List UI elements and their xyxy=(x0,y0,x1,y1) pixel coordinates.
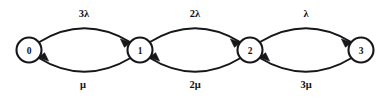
rate-label-0-to-1: 3λ xyxy=(79,8,90,19)
transition-arcs xyxy=(38,28,353,72)
transition-arc-path xyxy=(259,28,352,42)
transition-rate-labels: 3λ μ 2λ 2μ λ 3μ xyxy=(79,8,312,90)
rate-label-2-to-3: λ xyxy=(303,8,309,19)
rate-label-1-to-2: 2λ xyxy=(190,8,201,19)
transition-0-to-1[interactable] xyxy=(39,28,132,47)
state-label: 1 xyxy=(138,46,143,56)
transition-arc-path xyxy=(149,28,241,42)
state-label: 3 xyxy=(359,46,364,56)
state-node-2[interactable]: 2 xyxy=(238,38,263,63)
rate-label-3-to-2: 3μ xyxy=(300,79,311,90)
transition-arc-path xyxy=(39,28,132,42)
rate-label-2-to-1: 2μ xyxy=(189,79,200,90)
state-node-3[interactable]: 3 xyxy=(349,38,374,63)
transition-2-to-3[interactable] xyxy=(259,28,352,47)
transition-arc-path xyxy=(149,58,242,72)
state-label: 2 xyxy=(248,46,253,56)
transition-1-to-0[interactable] xyxy=(38,53,132,72)
rate-label-1-to-0: μ xyxy=(80,79,86,90)
state-nodes: 0 1 2 3 xyxy=(17,38,374,63)
state-label: 0 xyxy=(27,46,32,56)
transition-arc-path xyxy=(259,58,353,72)
state-node-0[interactable]: 0 xyxy=(17,38,42,63)
transition-arc-path xyxy=(38,58,132,72)
transition-2-to-1[interactable] xyxy=(149,53,242,72)
state-node-1[interactable]: 1 xyxy=(128,38,153,63)
transition-1-to-2[interactable] xyxy=(149,28,241,47)
markov-chain-diagram: 0 1 2 3 3λ μ 2λ 2μ λ 3μ xyxy=(0,0,391,97)
transition-3-to-2[interactable] xyxy=(259,53,353,72)
state-diagram-canvas: 0 1 2 3 3λ μ 2λ 2μ λ 3μ xyxy=(0,0,391,97)
